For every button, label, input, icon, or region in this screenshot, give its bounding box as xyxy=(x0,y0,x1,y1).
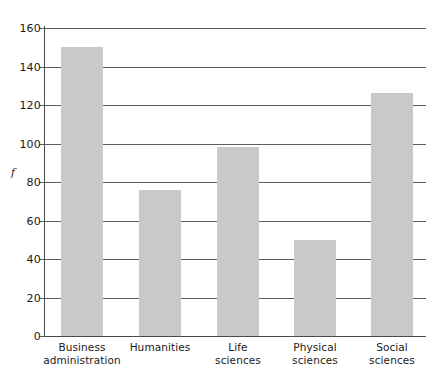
x-axis-category-label: Socialsciences xyxy=(345,341,439,366)
x-axis-category-label-line: sciences xyxy=(345,354,439,367)
y-axis-tick-label: 0 xyxy=(5,331,41,342)
x-axis-line xyxy=(44,336,426,337)
bar xyxy=(371,93,413,336)
bar xyxy=(294,240,336,336)
bar xyxy=(61,47,103,336)
y-axis-tick-label: 100 xyxy=(5,138,41,149)
y-axis-tick-label: 60 xyxy=(5,215,41,226)
y-axis-line xyxy=(44,26,45,337)
y-axis-tick-label: 40 xyxy=(5,254,41,265)
x-axis-category-label-line: Social xyxy=(345,341,439,354)
bar-chart: 020406080100120140160 f Businessadminist… xyxy=(0,0,445,373)
y-axis-tick-label: 160 xyxy=(5,23,41,34)
y-axis-tick-label: 140 xyxy=(5,61,41,72)
y-axis-title: f xyxy=(11,166,15,179)
bar xyxy=(139,190,181,336)
y-axis-tick-label: 20 xyxy=(5,292,41,303)
x-axis-category-label-line: administration xyxy=(35,354,129,367)
bar xyxy=(217,147,259,336)
y-axis-tick-label: 120 xyxy=(5,100,41,111)
gridline xyxy=(44,28,426,29)
